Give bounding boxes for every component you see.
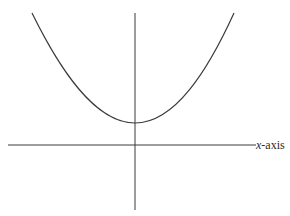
x-axis-label: x-axis: [256, 137, 285, 153]
graph-canvas: [0, 0, 290, 216]
x-axis-suffix: -axis: [261, 138, 284, 152]
u-shaped-curve: [32, 13, 234, 123]
